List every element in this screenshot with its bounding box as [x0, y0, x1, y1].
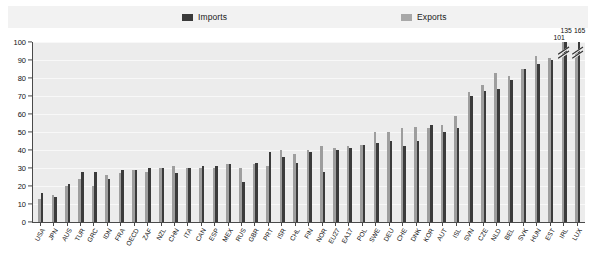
bar-group[interactable] [34, 42, 47, 222]
bar-group[interactable] [88, 42, 101, 222]
bar-imports[interactable] [296, 163, 299, 222]
bar-imports[interactable] [430, 125, 433, 222]
x-axis-label-cell: DNK [409, 224, 422, 260]
bar-group[interactable] [396, 42, 409, 222]
x-axis-label-cell: NLD [489, 224, 502, 260]
bar-imports[interactable] [537, 64, 540, 222]
bar-imports[interactable] [175, 173, 178, 222]
bar-group[interactable] [47, 42, 60, 222]
legend-item-exports: Exports [401, 12, 447, 22]
bar-imports[interactable] [403, 146, 406, 222]
bar-group[interactable] [383, 42, 396, 222]
bar-group[interactable] [195, 42, 208, 222]
bar-group[interactable] [370, 42, 383, 222]
chart-legend: Imports Exports [8, 6, 588, 28]
bar-imports[interactable] [108, 179, 111, 222]
bar-imports[interactable] [349, 148, 352, 222]
bar-group[interactable] [517, 42, 530, 222]
bar-imports[interactable] [135, 170, 138, 222]
bar-imports[interactable] [484, 91, 487, 222]
x-axis-tick-label: ITA [182, 227, 193, 239]
bar-imports[interactable] [121, 170, 124, 222]
bar-group[interactable]: 165 [571, 42, 584, 222]
bar-group[interactable] [115, 42, 128, 222]
bar-group[interactable] [222, 42, 235, 222]
bar-imports[interactable] [54, 197, 57, 222]
bar-imports[interactable] [417, 141, 420, 222]
bar-group[interactable] [410, 42, 423, 222]
bar-group[interactable] [450, 42, 463, 222]
x-axis-tick-mark [295, 223, 296, 226]
bar-group[interactable] [249, 42, 262, 222]
bar-imports[interactable] [443, 132, 446, 222]
bar-group[interactable] [128, 42, 141, 222]
x-axis-tick-label: POL [355, 227, 368, 242]
bar-imports[interactable] [41, 193, 44, 222]
bar-imports[interactable] [255, 163, 258, 222]
bar-group[interactable] [464, 42, 477, 222]
bar-imports[interactable] [202, 166, 205, 222]
x-axis-tick-mark [469, 223, 470, 226]
bar-group[interactable] [276, 42, 289, 222]
bar-imports[interactable] [578, 42, 581, 222]
bar-group[interactable] [437, 42, 450, 222]
x-axis-tick-label: SWE [368, 227, 382, 244]
bar-imports[interactable] [81, 172, 84, 222]
bar-group[interactable] [262, 42, 275, 222]
bar-group[interactable] [141, 42, 154, 222]
bar-group[interactable] [504, 42, 517, 222]
bar-imports[interactable] [376, 143, 379, 222]
bar-group[interactable] [531, 42, 544, 222]
bar-imports[interactable] [524, 69, 527, 222]
bar-imports[interactable] [148, 168, 151, 222]
x-axis-label-cell: JPN [46, 224, 59, 260]
bar-imports[interactable] [510, 80, 513, 222]
bar-imports[interactable] [282, 157, 285, 222]
bar-group[interactable] [490, 42, 503, 222]
y-axis-tick-label: 40 [0, 146, 26, 155]
x-axis-tick-label: EU27 [327, 227, 341, 245]
x-axis-tick-label: AUT [436, 227, 449, 242]
bar-group[interactable] [302, 42, 315, 222]
bar-imports[interactable] [497, 89, 500, 222]
bar-imports[interactable] [457, 128, 460, 222]
bar-imports[interactable] [309, 152, 312, 222]
bar-imports[interactable] [229, 164, 232, 222]
bar-imports[interactable] [323, 172, 326, 222]
bar-group[interactable] [155, 42, 168, 222]
bar-group[interactable] [477, 42, 490, 222]
bar-imports[interactable] [215, 166, 218, 222]
bar-group[interactable] [316, 42, 329, 222]
bar-imports[interactable] [162, 168, 165, 222]
bar-group[interactable] [423, 42, 436, 222]
bar-imports[interactable] [551, 60, 554, 222]
bar-group[interactable] [74, 42, 87, 222]
bar-imports[interactable] [68, 184, 71, 222]
y-axis-tick-label: 50 [0, 128, 26, 137]
bar-imports[interactable] [470, 96, 473, 222]
bar-imports[interactable] [242, 182, 245, 222]
bar-group[interactable] [208, 42, 221, 222]
bar-group[interactable] [544, 42, 557, 222]
bar-group[interactable] [235, 42, 248, 222]
bar-imports[interactable] [269, 152, 272, 222]
x-axis-label-cell: DEU [382, 224, 395, 260]
bar-imports[interactable] [564, 42, 567, 222]
bar-imports[interactable] [390, 141, 393, 222]
bar-group[interactable] [101, 42, 114, 222]
bar-imports[interactable] [188, 168, 191, 222]
bar-group[interactable] [329, 42, 342, 222]
x-axis-label-cell: NOR [315, 224, 328, 260]
bar-imports[interactable] [336, 150, 339, 222]
bar-imports[interactable] [94, 172, 97, 222]
bar-group[interactable] [168, 42, 181, 222]
bar-group[interactable]: 101135 [557, 42, 570, 222]
bar-group[interactable] [356, 42, 369, 222]
bar-group[interactable] [182, 42, 195, 222]
bar-group[interactable] [289, 42, 302, 222]
bar-group[interactable] [61, 42, 74, 222]
bar-group[interactable] [343, 42, 356, 222]
x-axis-tick-label: NZL [154, 227, 166, 241]
x-axis-tick-label: EA17 [340, 227, 354, 244]
bar-imports[interactable] [363, 145, 366, 222]
